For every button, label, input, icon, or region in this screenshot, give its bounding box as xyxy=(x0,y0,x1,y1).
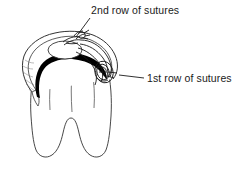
tooth-illustration xyxy=(0,0,245,169)
label-second-row-of-sutures: 2nd row of sutures xyxy=(91,4,179,16)
leader-line-first-row xyxy=(119,75,144,78)
dental-suture-diagram: 2nd row of sutures 1st row of sutures xyxy=(0,0,245,169)
label-first-row-of-sutures: 1st row of sutures xyxy=(147,72,232,84)
